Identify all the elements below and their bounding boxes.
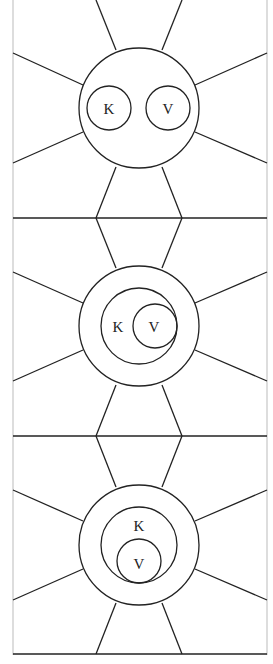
v-label: V [163,101,174,117]
v-label: V [149,319,160,335]
panel-1 [13,0,267,218]
k-label: K [104,101,115,117]
panel-2 [13,218,267,436]
outer-circle [79,48,199,168]
outer-circle [79,266,199,386]
diagram-canvas: K V K V K V [0,0,273,664]
k-label: K [113,319,124,335]
outer-circle [79,485,199,605]
k-label: K [134,518,145,534]
diagram-svg: K V K V K V [0,0,273,664]
v-label: V [134,556,145,572]
panel-3 [13,436,267,654]
